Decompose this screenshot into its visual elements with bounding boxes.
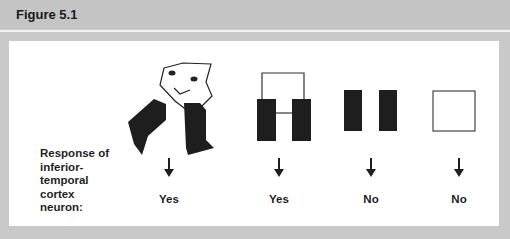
row-label-line: temporal	[40, 174, 130, 188]
face-stimulus	[128, 63, 214, 155]
down-arrow-icons	[164, 158, 464, 177]
row-label-line: inferior-	[40, 161, 130, 175]
empty-square-stimulus	[433, 91, 475, 131]
response-face: Yes	[139, 193, 199, 205]
row-label: Response of inferior- temporal cortex ne…	[40, 147, 130, 215]
response-separate-bars: No	[341, 193, 401, 205]
row-label-line: neuron:	[40, 201, 130, 215]
separate-bars-stimulus	[344, 90, 397, 131]
response-square: No	[429, 193, 489, 205]
row-label-line: cortex	[40, 188, 130, 202]
row-label-line: Response of	[40, 147, 130, 161]
response-connected-bars: Yes	[249, 193, 309, 205]
connected-bars-stimulus	[257, 73, 311, 141]
